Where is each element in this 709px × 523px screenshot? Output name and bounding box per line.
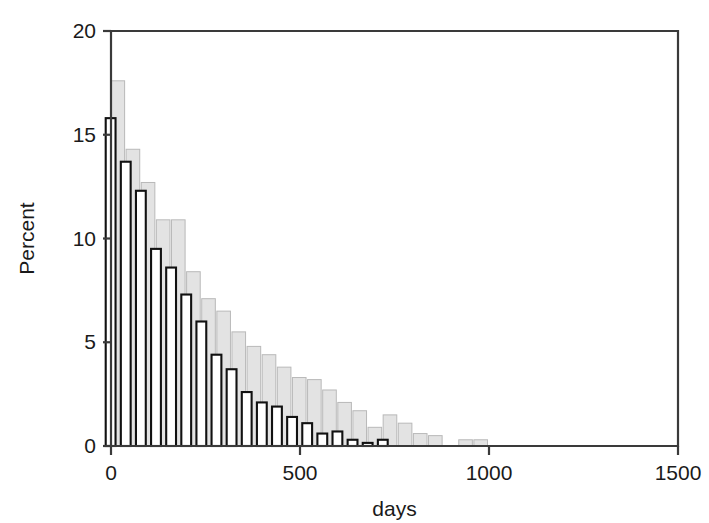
- y-tick-label: 5: [84, 330, 96, 353]
- bar: [287, 417, 297, 446]
- x-tick-label: 0: [105, 461, 117, 484]
- chart-canvas: 05101520050010001500daysPercent: [0, 0, 709, 523]
- bar: [413, 434, 427, 446]
- bar: [196, 322, 206, 447]
- bar: [227, 369, 237, 446]
- bar: [429, 436, 443, 446]
- bar: [121, 162, 131, 446]
- x-tick-label: 1500: [655, 461, 702, 484]
- bar: [317, 434, 327, 446]
- bar: [302, 423, 312, 446]
- bar: [398, 423, 412, 446]
- bar: [242, 392, 252, 446]
- bar: [333, 431, 343, 446]
- x-axis-title: days: [372, 497, 416, 520]
- y-axis-title: Percent: [15, 202, 38, 275]
- histogram-figure: 05101520050010001500daysPercent: [0, 0, 709, 523]
- bar: [166, 268, 176, 446]
- x-tick-label: 1000: [466, 461, 513, 484]
- bar: [151, 249, 161, 446]
- y-tick-label: 0: [84, 434, 96, 457]
- bar: [181, 295, 191, 446]
- y-tick-label: 10: [73, 227, 96, 250]
- y-tick-label: 15: [73, 123, 96, 146]
- x-tick-label: 500: [282, 461, 317, 484]
- bar: [257, 402, 267, 446]
- y-tick-label: 20: [73, 19, 96, 42]
- bar: [272, 407, 282, 446]
- bar: [212, 355, 222, 446]
- bar: [136, 191, 146, 446]
